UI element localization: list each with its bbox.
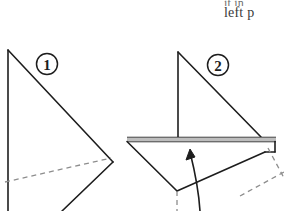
figure-2-hidden-flap-edge-lower [240,172,284,196]
figure-1-upper-diagonal [8,50,113,162]
fold-up-arrow-head [186,149,195,160]
origami-diagram: 1 [0,0,284,211]
step-2-badge-label: 2 [214,58,222,74]
figure-1-lower-diagonal [62,162,113,211]
figure-step-1: 1 [5,50,113,211]
step-1-badge: 1 [37,54,58,75]
step-1-badge-label: 1 [43,57,51,73]
figure-step-2: 2 [127,52,284,211]
origami-page: it in left p 1 [0,0,284,211]
figure-2-deck-fill [127,138,276,142]
fold-up-arrow [186,149,200,211]
step-2-badge: 2 [208,55,229,76]
figure-2-deck-band [127,138,276,142]
figure-2-hull-left-edge [127,142,177,192]
